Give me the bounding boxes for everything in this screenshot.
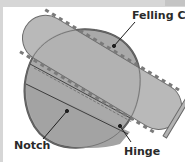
label-notch: Notch [14,139,50,152]
label-felling-cut: Felling Cut [132,9,185,22]
felling-diagram [0,0,185,162]
label-hinge: Hinge [124,145,160,158]
